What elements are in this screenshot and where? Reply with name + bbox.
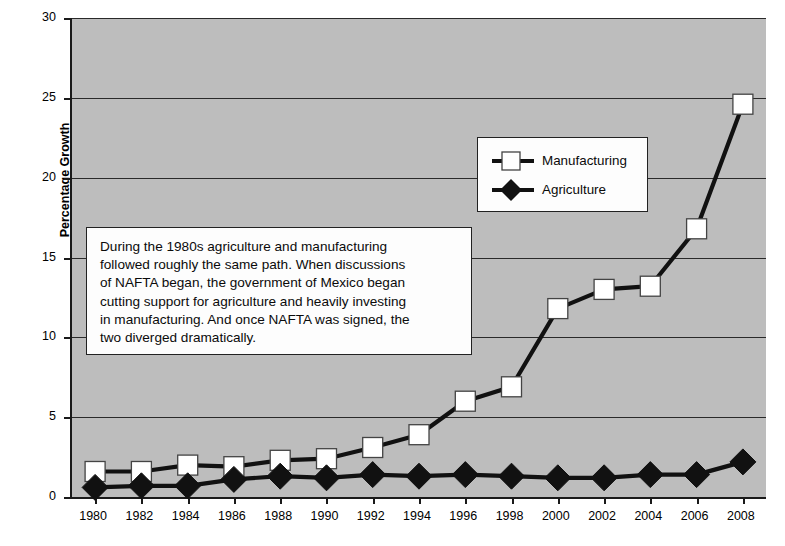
x-tick-mark [650, 497, 652, 504]
x-tick-mark [512, 497, 514, 504]
x-tick-mark [558, 497, 560, 504]
data-point-marker-diamond [406, 463, 432, 489]
x-tick-mark [743, 497, 745, 504]
y-tick-mark [64, 98, 71, 100]
data-point-marker-square [733, 94, 753, 114]
data-point-marker-diamond [684, 462, 710, 488]
white-square-marker-icon [490, 150, 536, 172]
chart-screenshot: Percentage Growth 302520151050 198019821… [0, 0, 785, 546]
legend-label-agriculture: Agriculture [536, 182, 606, 197]
data-point-marker-square [363, 438, 383, 458]
y-tick-label: 25 [16, 91, 56, 103]
data-point-marker-square [594, 279, 614, 299]
x-tick-mark [419, 497, 421, 504]
y-tick-mark [64, 18, 71, 20]
x-tick-mark [326, 497, 328, 504]
data-point-marker-square [687, 219, 707, 239]
x-tick-mark [280, 497, 282, 504]
legend-item-agriculture: Agriculture [478, 175, 647, 204]
data-point-marker-diamond [591, 465, 617, 491]
y-tick-label: 15 [16, 251, 56, 263]
y-tick-label: 30 [16, 11, 56, 23]
data-point-marker-diamond [637, 462, 663, 488]
y-tick-label: 5 [16, 410, 56, 422]
data-point-marker-square [409, 425, 429, 445]
data-point-marker-square [548, 299, 568, 319]
chart-legend: Manufacturing Agriculture [477, 137, 648, 212]
y-tick-mark [64, 417, 71, 419]
y-tick-label: 10 [16, 330, 56, 342]
data-point-marker-diamond [730, 449, 756, 475]
data-point-marker-diamond [452, 462, 478, 488]
data-point-marker-diamond [499, 463, 525, 489]
data-point-marker-square [455, 391, 475, 411]
data-point-marker-diamond [545, 465, 571, 491]
black-diamond-marker-icon [490, 179, 536, 201]
x-tick-mark [373, 497, 375, 504]
annotation-text: During the 1980s agriculture and manufac… [100, 238, 460, 347]
x-tick-mark [465, 497, 467, 504]
y-tick-mark [64, 178, 71, 180]
legend-item-manufacturing: Manufacturing [478, 146, 647, 175]
x-tick-mark [234, 497, 236, 504]
y-tick-label: 20 [16, 171, 56, 183]
x-tick-mark [697, 497, 699, 504]
data-point-marker-diamond [360, 462, 386, 488]
y-tick-label: 0 [16, 490, 56, 502]
legend-label-manufacturing: Manufacturing [536, 153, 627, 168]
data-point-marker-diamond [175, 473, 201, 499]
annotation-textbox: During the 1980s agriculture and manufac… [86, 227, 472, 355]
y-tick-mark [64, 337, 71, 339]
x-tick-label: 2008 [714, 509, 768, 523]
data-point-marker-square [640, 276, 660, 296]
y-tick-mark [64, 497, 71, 499]
y-tick-mark [64, 258, 71, 260]
data-point-marker-square [502, 377, 522, 397]
x-tick-mark [604, 497, 606, 504]
